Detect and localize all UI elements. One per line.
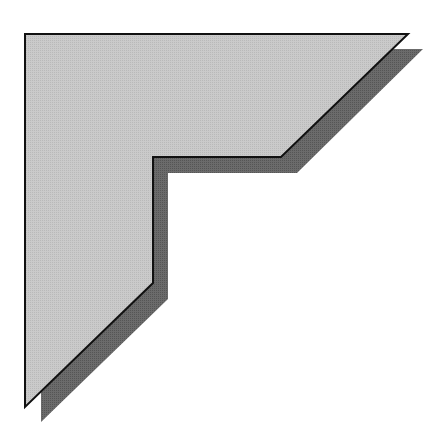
corner-shape-figure bbox=[0, 0, 443, 443]
main-corner-shape bbox=[25, 34, 408, 407]
